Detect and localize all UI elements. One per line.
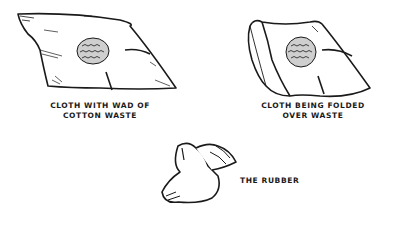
caption-line: COTTON WASTE [40,111,160,121]
cotton-waste-wad-2 [286,37,316,67]
rubber-drawing [162,143,236,202]
caption-folding-cloth: CLOTH BEING FOLDED OVER WASTE [253,101,373,121]
caption-line: OVER WASTE [253,111,373,121]
caption-line: CLOTH BEING FOLDED [253,101,373,111]
caption-rubber: THE RUBBER [240,176,310,186]
cotton-waste-wad-1 [77,38,109,64]
caption-line: THE RUBBER [240,176,310,186]
caption-flat-cloth: CLOTH WITH WAD OF COTTON WASTE [40,101,160,121]
caption-line: CLOTH WITH WAD OF [40,101,160,111]
